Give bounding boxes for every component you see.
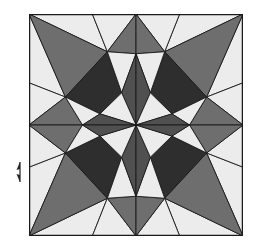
quilt-block	[29, 14, 243, 236]
quilt-pattern-svg	[29, 14, 243, 236]
double-arrow-vertical-icon	[16, 161, 22, 183]
